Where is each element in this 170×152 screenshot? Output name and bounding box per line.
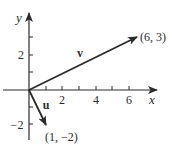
y-tick-label-neg2: −2 [11,118,24,132]
x-axis: 2 4 6 x [3,86,157,107]
vector-u: u (1, −2) [29,90,78,144]
y-axis-label: y [14,10,22,25]
y-axis: 2 −2 y [11,10,33,140]
y-tick-label-2: 2 [18,48,24,62]
vector-v-endpoint-label: (6, 3) [140,30,166,44]
vector-v-arrow [29,37,137,90]
vector-v-label: v [77,46,83,60]
vector-u-label: u [43,98,50,112]
vector-v: v (6, 3) [29,30,166,90]
vector-u-endpoint-label: (1, −2) [45,130,78,144]
vector-diagram: 2 4 6 x 2 −2 y v (6, 3) u (1, −2) [0,0,170,152]
x-axis-label: x [148,92,155,107]
x-tick-label-2: 2 [59,93,65,107]
x-tick-label-4: 4 [93,93,99,107]
x-tick-label-6: 6 [126,93,132,107]
